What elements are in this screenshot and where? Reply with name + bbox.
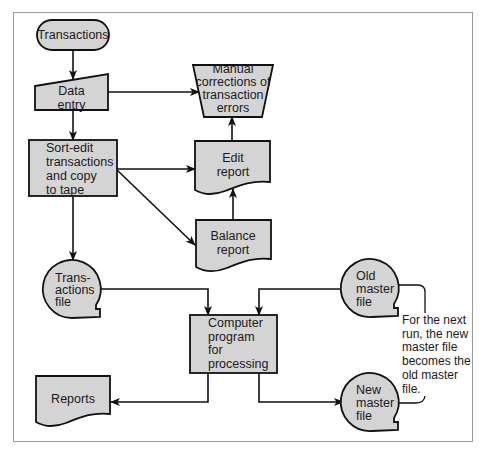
annotation-bracket-lower: [398, 396, 425, 403]
label-new-master: New master file: [356, 384, 401, 423]
edge-transactions-file-to-computer-program: [101, 289, 208, 315]
label-edit-report: Edit report: [198, 151, 268, 179]
annotation-text: For the next run, the new master file be…: [402, 314, 482, 396]
label-balance-report: Balance report: [198, 229, 268, 257]
label-sort-edit: Sort-edit transactions and copy to tape: [46, 141, 116, 197]
label-manual-corrections: Manual corrections of transaction errors: [190, 63, 276, 115]
label-reports: Reports: [36, 392, 110, 406]
edge-computer-program-to-new-master: [259, 373, 343, 402]
edge-old-master-to-computer-program: [259, 289, 343, 315]
label-transactions: Transactions: [37, 28, 109, 42]
label-transactions-file: Trans- actions file: [55, 272, 100, 308]
annotation-bracket: [398, 285, 425, 313]
label-old-master: Old master file: [356, 270, 401, 309]
edge-sort-edit-to-balance-report: [117, 170, 195, 245]
label-computer-program: Computer program for processing: [208, 317, 276, 371]
edge-computer-program-to-reports: [111, 373, 208, 402]
label-data-entry: Data entry: [35, 84, 108, 112]
